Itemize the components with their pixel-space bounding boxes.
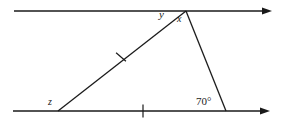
geometry-figure: y x z 70° bbox=[0, 0, 283, 127]
transversal-z-to-apex bbox=[58, 11, 186, 111]
angle-label-x: x bbox=[177, 14, 181, 24]
angle-label-70-degrees: 70° bbox=[196, 96, 211, 107]
angle-label-z: z bbox=[48, 97, 52, 107]
geometry-canvas bbox=[0, 0, 283, 127]
arrowhead-bottom-right bbox=[260, 108, 270, 115]
arrowhead-top-right bbox=[262, 8, 272, 15]
angle-label-y: y bbox=[159, 9, 164, 20]
congruence-tick-slant-side bbox=[116, 53, 126, 62]
